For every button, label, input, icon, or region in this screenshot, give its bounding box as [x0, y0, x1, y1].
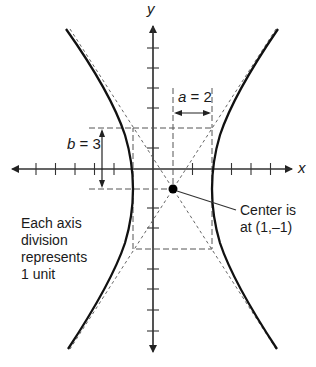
a-value: = 2 — [186, 88, 211, 105]
center-annotation: Center is at (1,–1) — [240, 202, 296, 236]
center-leader-line — [177, 191, 236, 210]
a-label: a = 2 — [178, 88, 212, 105]
b-label: b = 3 — [67, 135, 101, 152]
center-point — [169, 185, 178, 194]
x-axis-label: x — [298, 159, 306, 176]
hyperbola-diagram — [0, 0, 316, 367]
right-branch — [212, 29, 278, 349]
x-axis — [12, 163, 292, 175]
scale-note: Each axis division represents 1 unit — [21, 215, 87, 283]
a-dimension-arrow — [174, 110, 211, 116]
y-axis-label: y — [147, 0, 155, 17]
b-value: = 3 — [75, 135, 100, 152]
